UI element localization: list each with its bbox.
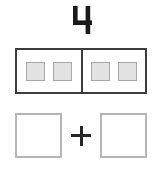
answer-box-left[interactable] — [15, 113, 62, 158]
answer-box-right[interactable] — [100, 113, 147, 158]
counter-square — [26, 62, 45, 81]
digit-four-glyph — [71, 4, 95, 36]
bar-half-left — [17, 50, 81, 92]
total-number-label: 4 — [0, 4, 165, 36]
counter-square — [118, 62, 137, 81]
counter-square — [91, 62, 110, 81]
plus-icon — [70, 125, 92, 147]
bar-half-right — [81, 50, 145, 92]
answer-row — [15, 112, 147, 159]
number-bond-worksheet: 4 — [0, 0, 165, 169]
whole-bar — [15, 48, 147, 94]
counter-square — [53, 62, 72, 81]
